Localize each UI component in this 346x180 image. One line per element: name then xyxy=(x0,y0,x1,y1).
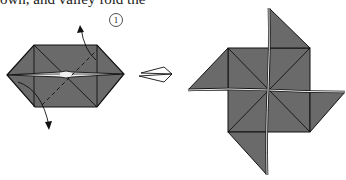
step-number: 1 xyxy=(114,15,119,25)
result-arrow-icon xyxy=(139,67,172,82)
step-number-badge: 1 xyxy=(110,14,123,27)
folded-base-figure xyxy=(7,25,124,130)
pinwheel-figure xyxy=(188,8,345,175)
origami-diagram: 1 xyxy=(0,0,346,180)
